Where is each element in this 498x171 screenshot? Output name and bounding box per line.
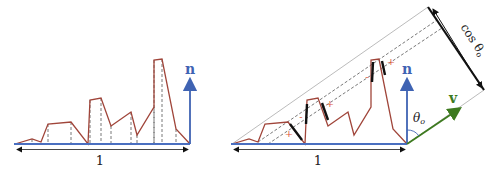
svg-text:+: +	[387, 56, 395, 67]
normal-label: n	[402, 61, 412, 77]
width-label: 1	[96, 153, 104, 168]
svg-text:+: +	[326, 98, 334, 109]
width-label: 1	[314, 153, 322, 168]
microsurface-profile	[15, 59, 190, 144]
right-panel: + - + - + 1 n v θo cos θo	[231, 7, 489, 168]
microfacet-projection-diagram: 1 n + - + - +	[0, 0, 498, 171]
projection-rays	[258, 20, 442, 144]
normal-label: n	[185, 61, 195, 77]
svg-text:+: +	[285, 128, 293, 139]
left-panel: 1 n	[14, 59, 195, 168]
svg-text:-: -	[365, 71, 368, 82]
view-label: v	[448, 90, 458, 106]
angle-arc	[407, 130, 419, 136]
angle-label: θo	[413, 111, 425, 126]
microsurface-profile	[232, 59, 407, 144]
svg-text:-: -	[299, 111, 302, 122]
projected-width-label: cos θo	[457, 21, 489, 59]
